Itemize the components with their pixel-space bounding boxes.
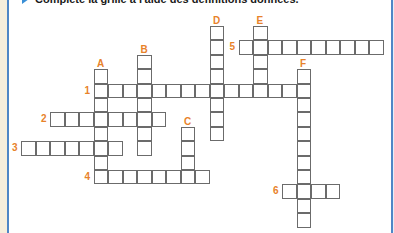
crossword-cell[interactable]: [152, 112, 167, 126]
crossword-cell[interactable]: [369, 40, 384, 54]
clue-label-e: E: [257, 16, 264, 26]
crossword-cell[interactable]: [268, 40, 283, 54]
crossword-cell[interactable]: [311, 40, 326, 54]
crossword-cell[interactable]: [210, 26, 225, 40]
crossword-cell[interactable]: [137, 141, 152, 155]
crossword-cell[interactable]: [36, 141, 51, 155]
crossword-grid: 123456ABCDEF: [0, 0, 394, 233]
crossword-cell[interactable]: [94, 127, 109, 141]
clue-label-d: D: [213, 16, 220, 26]
crossword-cell[interactable]: [239, 84, 254, 98]
crossword-cell[interactable]: [210, 40, 225, 54]
crossword-cell[interactable]: [108, 141, 123, 155]
crossword-cell[interactable]: [253, 55, 268, 69]
crossword-cell[interactable]: [311, 184, 326, 198]
crossword-cell[interactable]: [326, 184, 341, 198]
crossword-cell[interactable]: [210, 55, 225, 69]
crossword-cell[interactable]: [123, 170, 138, 184]
crossword-cell[interactable]: [50, 141, 65, 155]
clue-label-6: 6: [273, 186, 279, 196]
crossword-cell[interactable]: [253, 84, 268, 98]
crossword-cell[interactable]: [123, 112, 138, 126]
crossword-cell[interactable]: [210, 69, 225, 83]
crossword-cell[interactable]: [108, 84, 123, 98]
crossword-cell[interactable]: [239, 40, 254, 54]
crossword-cell[interactable]: [297, 184, 312, 198]
crossword-cell[interactable]: [253, 40, 268, 54]
crossword-cell[interactable]: [94, 112, 109, 126]
crossword-cell[interactable]: [210, 98, 225, 112]
crossword-cell[interactable]: [94, 141, 109, 155]
clue-label-1: 1: [85, 86, 91, 96]
crossword-cell[interactable]: [166, 84, 181, 98]
crossword-cell[interactable]: [297, 156, 312, 170]
crossword-cell[interactable]: [152, 170, 167, 184]
crossword-cell[interactable]: [137, 84, 152, 98]
crossword-cell[interactable]: [282, 184, 297, 198]
crossword-cell[interactable]: [253, 26, 268, 40]
crossword-cell[interactable]: [210, 84, 225, 98]
crossword-cell[interactable]: [50, 112, 65, 126]
clue-label-c: C: [184, 117, 191, 127]
crossword-cell[interactable]: [297, 98, 312, 112]
crossword-cell[interactable]: [297, 127, 312, 141]
crossword-cell[interactable]: [79, 112, 94, 126]
clue-label-a: A: [97, 59, 104, 69]
crossword-cell[interactable]: [94, 98, 109, 112]
crossword-cell[interactable]: [181, 156, 196, 170]
clue-label-f: F: [300, 59, 306, 69]
crossword-cell[interactable]: [195, 170, 210, 184]
crossword-cell[interactable]: [152, 84, 167, 98]
crossword-cell[interactable]: [94, 170, 109, 184]
crossword-cell[interactable]: [137, 127, 152, 141]
crossword-cell[interactable]: [297, 170, 312, 184]
crossword-cell[interactable]: [282, 84, 297, 98]
crossword-cell[interactable]: [181, 127, 196, 141]
crossword-cell[interactable]: [79, 141, 94, 155]
crossword-cell[interactable]: [137, 98, 152, 112]
clue-label-5: 5: [230, 42, 236, 52]
crossword-cell[interactable]: [94, 84, 109, 98]
crossword-cell[interactable]: [253, 69, 268, 83]
crossword-cell[interactable]: [65, 141, 80, 155]
crossword-cell[interactable]: [195, 84, 210, 98]
crossword-cell[interactable]: [166, 170, 181, 184]
crossword-cell[interactable]: [297, 199, 312, 213]
crossword-cell[interactable]: [224, 84, 239, 98]
crossword-cell[interactable]: [137, 55, 152, 69]
crossword-cell[interactable]: [355, 40, 370, 54]
crossword-cell[interactable]: [108, 170, 123, 184]
crossword-cell[interactable]: [137, 112, 152, 126]
crossword-cell[interactable]: [210, 112, 225, 126]
crossword-cell[interactable]: [21, 141, 36, 155]
clue-label-3: 3: [12, 143, 18, 153]
crossword-cell[interactable]: [340, 40, 355, 54]
crossword-cell[interactable]: [137, 170, 152, 184]
crossword-cell[interactable]: [297, 141, 312, 155]
clue-label-2: 2: [41, 114, 47, 124]
crossword-cell[interactable]: [137, 69, 152, 83]
crossword-cell[interactable]: [297, 40, 312, 54]
clue-label-b: B: [141, 45, 148, 55]
crossword-cell[interactable]: [181, 84, 196, 98]
crossword-cell[interactable]: [297, 69, 312, 83]
crossword-cell[interactable]: [210, 127, 225, 141]
crossword-cell[interactable]: [94, 156, 109, 170]
crossword-cell[interactable]: [326, 40, 341, 54]
crossword-cell[interactable]: [181, 170, 196, 184]
crossword-cell[interactable]: [108, 112, 123, 126]
crossword-cell[interactable]: [297, 213, 312, 227]
crossword-cell[interactable]: [268, 84, 283, 98]
crossword-cell[interactable]: [65, 112, 80, 126]
crossword-cell[interactable]: [94, 69, 109, 83]
crossword-cell[interactable]: [282, 40, 297, 54]
crossword-cell[interactable]: [297, 112, 312, 126]
crossword-cell[interactable]: [297, 84, 312, 98]
crossword-cell[interactable]: [181, 141, 196, 155]
crossword-cell[interactable]: [123, 84, 138, 98]
clue-label-4: 4: [85, 172, 91, 182]
